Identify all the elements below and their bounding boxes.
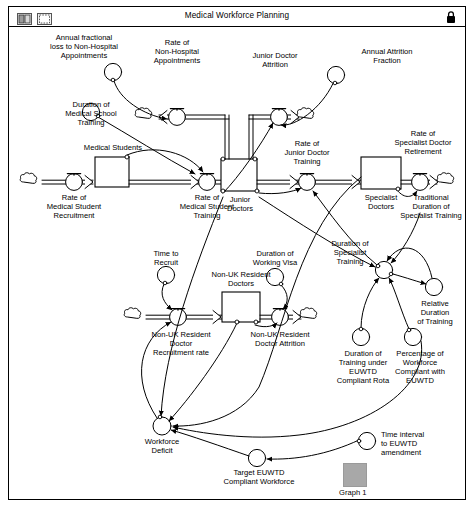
label-non-uk-resident-doctor-attrition: Non-UK Resident Doctor Attrition (237, 330, 323, 348)
label-time-to-recruit: Time to Recruit (137, 249, 195, 267)
label-non-uk-resident-doctors: Non-UK Resident Doctors (203, 270, 279, 288)
application-window: Medical Workforce Planning (8, 6, 466, 500)
label-duration-of-specialist-training: Duration of Specialist Training (319, 239, 381, 266)
window-title: Medical Workforce Planning (9, 11, 465, 20)
diagram-canvas[interactable]: Annual fractional loss to Non-Hospital A… (9, 27, 465, 499)
label-junior-doctor-attrition: Junior Doctor Attrition (237, 51, 313, 69)
stock-flow-diagram (9, 27, 465, 499)
label-rate-of-specialist-doctor-retirement: Rate of Specialist Doctor Retirement (377, 129, 465, 156)
window-titlebar: Medical Workforce Planning (9, 7, 465, 27)
graph-thumbnail[interactable] (343, 463, 367, 487)
label-rate-of-medical-student-recruitment: Rate of Medical Student Recruitment (24, 193, 124, 220)
label-annual-attrition-fraction: Annual Attrition Fraction (343, 47, 431, 65)
label-target-euwtd-compliant-workforce: Target EUWTD Compliant Workforce (207, 468, 311, 486)
label-time-interval-to-euwtd-amendment: Time interval to EUWTD amendment (381, 430, 451, 457)
screenshot-root: Medical Workforce Planning (0, 0, 474, 510)
label-traditional-duration-of-specialist-training: Traditional Duration of Specialist Train… (391, 193, 465, 220)
label-non-uk-resident-doctor-recruitment-rate: Non-UK Resident Doctor Recruitment rate (139, 330, 223, 357)
label-rate-of-junior-doctor-training: Rate of Junior Doctor Training (271, 139, 343, 166)
label-duration-of-medical-school-training: Duration of Medical School Training (49, 100, 133, 127)
label-medical-students: Medical Students (77, 143, 149, 152)
label-junior-doctors: Junior Doctors (217, 195, 263, 213)
lock-icon[interactable] (446, 10, 456, 24)
label-duration-of-working-visa: Duration of Working Visa (239, 249, 311, 267)
label-workforce-deficit: Workforce Deficit (133, 437, 191, 455)
label-relative-duration-of-training: Relative Duration of Training (407, 299, 463, 326)
label-percentage-of-workforce-compliant: Percentage of Workforce Compliant with E… (379, 349, 461, 385)
label-rate-of-non-hospital-appointments: Rate of Non-Hospital Appointments (139, 38, 215, 65)
graph-thumbnail-label: Graph 1 (339, 488, 366, 497)
label-annual-fractional-loss: Annual fractional loss to Non-Hospital A… (29, 33, 139, 60)
